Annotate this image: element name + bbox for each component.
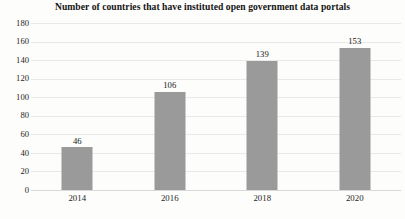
- x-axis: 2014201620182020: [31, 194, 401, 212]
- bar-group: 46: [31, 23, 124, 190]
- y-axis-tick-label: 40: [3, 149, 29, 158]
- bar[interactable]: [247, 61, 278, 190]
- x-axis-tick-label: 2018: [216, 194, 309, 203]
- y-axis-tick-label: 20: [3, 167, 29, 176]
- x-axis-tick-label: 2020: [309, 194, 402, 203]
- x-axis-tick-label: 2016: [124, 194, 217, 203]
- y-axis-tick-label: 80: [3, 111, 29, 120]
- chart-figure: Number of countries that have instituted…: [0, 0, 405, 219]
- y-axis-tick-label: 140: [3, 56, 29, 65]
- bar-group: 139: [216, 23, 309, 190]
- bar-value-label: 46: [73, 137, 82, 146]
- bar-group: 153: [309, 23, 402, 190]
- bar[interactable]: [154, 92, 185, 190]
- x-axis-tick-label: 2014: [31, 194, 124, 203]
- axis-baseline: [31, 190, 401, 191]
- y-axis: 020406080100120140160180: [0, 23, 29, 190]
- y-axis-tick-label: 160: [3, 37, 29, 46]
- y-axis-tick-label: 180: [3, 19, 29, 28]
- bar-value-label: 106: [163, 81, 176, 90]
- bar-value-label: 153: [348, 37, 361, 46]
- bar[interactable]: [339, 48, 370, 190]
- bar-value-label: 139: [256, 50, 269, 59]
- bars-layer: 46106139153: [31, 23, 401, 190]
- bar-group: 106: [124, 23, 217, 190]
- bar[interactable]: [62, 147, 93, 190]
- y-axis-tick-label: 0: [3, 186, 29, 195]
- y-axis-tick-label: 120: [3, 74, 29, 83]
- y-axis-tick-label: 60: [3, 130, 29, 139]
- chart-title: Number of countries that have instituted…: [0, 1, 405, 12]
- y-axis-tick-label: 100: [3, 93, 29, 102]
